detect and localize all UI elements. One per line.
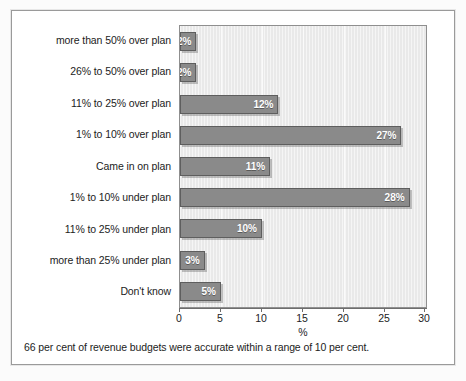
figure-frame: more than 50% over plan 26% to 50% over … <box>11 10 455 365</box>
x-axis-line <box>179 308 427 309</box>
bar[interactable]: 12% <box>180 95 278 114</box>
bar-data-label: 12% <box>253 99 277 110</box>
category-label: 11% to 25% under plan <box>22 214 177 245</box>
plot-area: 2% 2% 12% 27% <box>179 25 427 308</box>
bar[interactable]: 3% <box>180 251 205 270</box>
bar[interactable]: 2% <box>180 63 196 82</box>
category-label: more than 25% under plan <box>22 245 177 276</box>
category-label: 11% to 25% over plan <box>22 88 177 119</box>
figure-caption: 66 per cent of revenue budgets were accu… <box>24 341 442 353</box>
bar-data-label: 2% <box>179 36 195 47</box>
bar-row: 10% <box>180 213 426 244</box>
bar-row: 2% <box>180 57 426 88</box>
category-label: 1% to 10% over plan <box>22 119 177 150</box>
category-label: 26% to 50% over plan <box>22 56 177 87</box>
x-tick-label: 10 <box>255 312 267 324</box>
bar-row: 27% <box>180 120 426 151</box>
bar-chart: more than 50% over plan 26% to 50% over … <box>12 11 454 331</box>
category-label: Don't know <box>22 277 177 308</box>
x-tick-label: 15 <box>296 312 308 324</box>
bar-row: 5% <box>180 276 426 307</box>
category-label: Came in on plan <box>22 151 177 182</box>
bar-data-label: 5% <box>202 286 220 297</box>
bar[interactable]: 27% <box>180 126 401 145</box>
bar-data-label: 2% <box>179 67 195 78</box>
category-label: 1% to 10% under plan <box>22 182 177 213</box>
bar-data-label: 28% <box>385 192 409 203</box>
bar-row: 3% <box>180 245 426 276</box>
category-label: more than 50% over plan <box>22 25 177 56</box>
bar-data-label: 3% <box>185 255 203 266</box>
x-tick-label: 20 <box>337 312 349 324</box>
bar-data-label: 11% <box>246 161 269 172</box>
bar[interactable]: 11% <box>180 157 270 176</box>
category-axis: more than 50% over plan 26% to 50% over … <box>22 25 177 308</box>
bar[interactable]: 10% <box>180 219 262 238</box>
x-tick-label: 0 <box>176 312 182 324</box>
bar-data-label: 10% <box>237 223 261 234</box>
bar-row: 2% <box>180 26 426 57</box>
bar[interactable]: 28% <box>180 188 410 207</box>
x-tick-label: 5 <box>217 312 223 324</box>
bar-row: 11% <box>180 151 426 182</box>
bar-data-label: 27% <box>376 130 400 141</box>
x-tick-label: 25 <box>378 312 390 324</box>
bar[interactable]: 2% <box>180 32 196 51</box>
x-axis-title: % <box>179 326 427 338</box>
gridline <box>426 26 427 307</box>
page-background: more than 50% over plan 26% to 50% over … <box>0 0 466 381</box>
bar-series: 2% 2% 12% 27% <box>180 26 426 307</box>
bar[interactable]: 5% <box>180 282 221 301</box>
bar-row: 12% <box>180 88 426 119</box>
bar-row: 28% <box>180 182 426 213</box>
x-tick-label: 30 <box>418 312 430 324</box>
